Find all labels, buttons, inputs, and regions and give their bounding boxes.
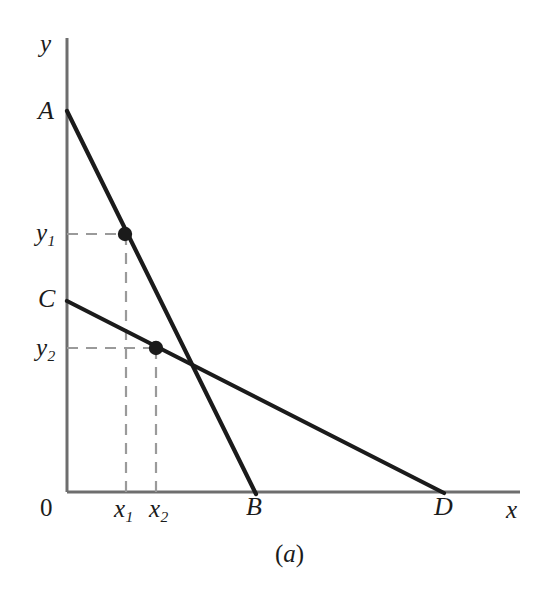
x2-base: x: [149, 495, 160, 522]
line-segment-AB: [67, 111, 256, 494]
x-tick-label-x1: x1: [114, 496, 133, 521]
y1-base: y: [36, 219, 47, 246]
plot-canvas: [0, 0, 557, 602]
figure-caption: (a): [275, 541, 304, 566]
point-label-C: C: [38, 286, 55, 312]
x-tick-label-x2: x2: [149, 496, 168, 521]
caption-close-paren: ): [296, 540, 304, 567]
x1-base: x: [114, 495, 125, 522]
origin-label: 0: [40, 495, 53, 520]
marker-point-on-AB: [118, 227, 132, 241]
marker-point-on-CD: [149, 341, 163, 355]
caption-letter: a: [283, 540, 296, 567]
line-segment-CD: [67, 301, 444, 493]
x-axis-label: x: [506, 497, 517, 522]
point-label-B: B: [246, 494, 262, 520]
y-tick-label-y2: y2: [36, 335, 55, 360]
y-tick-label-y1: y1: [36, 220, 55, 245]
y1-subscript: 1: [47, 232, 55, 249]
point-label-A: A: [38, 98, 54, 124]
x1-subscript: 1: [125, 508, 133, 525]
x2-subscript: 2: [160, 508, 168, 525]
point-label-D: D: [434, 494, 453, 520]
y-axis-label: y: [40, 31, 51, 56]
y2-base: y: [36, 334, 47, 361]
y2-subscript: 2: [47, 347, 55, 364]
figure-container: y x 0 A C B D y1 y2 x1 x2 (a): [0, 0, 557, 602]
